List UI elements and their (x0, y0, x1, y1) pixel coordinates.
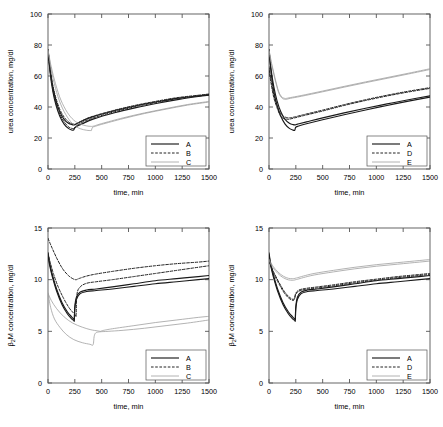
y-tick-label: 10 (34, 275, 42, 284)
x-tick-label: 1250 (395, 387, 411, 396)
x-tick-label: 750 (344, 387, 356, 396)
legend-label-B: B (186, 363, 191, 372)
y-tick-label: 0 (259, 379, 263, 388)
x-tick-label: 1500 (422, 173, 438, 182)
chart-bottom-left: 0250500750100012501500051015time, minβ2M… (0, 214, 221, 427)
x-tick-label: 250 (69, 173, 81, 182)
x-tick-label: 1500 (201, 173, 217, 182)
x-tick-label: 500 (317, 387, 329, 396)
x-tick-label: 1500 (422, 387, 438, 396)
x-tick-label: 0 (267, 387, 271, 396)
y-tick-label: 0 (38, 379, 42, 388)
x-tick-label: 500 (96, 387, 108, 396)
x-tick-label: 500 (96, 173, 108, 182)
y-tick-label: 60 (255, 72, 263, 81)
legend-label-A: A (186, 140, 191, 149)
legend-box (367, 136, 427, 166)
y-axis-label: urea concentration, mg/dl (6, 49, 15, 133)
legend-label-B: B (186, 149, 191, 158)
legend-label-C: C (186, 158, 191, 167)
x-axis-label: time, min (335, 402, 365, 411)
y-tick-label: 20 (255, 134, 263, 143)
series-line-A (269, 253, 430, 320)
legend-label-A: A (186, 354, 191, 363)
x-tick-label: 750 (344, 173, 356, 182)
series-group (269, 50, 430, 131)
series-line-A (48, 50, 209, 125)
legend-label-D: D (407, 149, 412, 158)
legend-label-E: E (407, 158, 412, 167)
y-tick-label: 15 (255, 224, 263, 233)
y-tick-label: 0 (259, 165, 263, 174)
x-axis-label: time, min (114, 188, 144, 197)
legend-box (146, 350, 206, 380)
series-line-B (48, 238, 209, 279)
chart-top-right: 0250500750100012501500020406080100time, … (221, 0, 442, 213)
series-group (269, 253, 430, 322)
y-tick-label: 15 (34, 224, 42, 233)
series-line-C (48, 50, 209, 127)
y-tick-label: 40 (34, 103, 42, 112)
x-tick-label: 250 (290, 387, 302, 396)
y-axis-label: β2M concentration, mg/dl (227, 264, 237, 346)
x-tick-label: 250 (290, 173, 302, 182)
y-tick-label: 10 (255, 275, 263, 284)
x-tick-label: 1000 (147, 387, 163, 396)
figure-container: 0250500750100012501500020406080100time, … (0, 0, 443, 427)
y-axis-label: β2M concentration, mg/dl (6, 264, 16, 346)
y-tick-label: 5 (259, 327, 263, 336)
x-tick-label: 1000 (368, 173, 384, 182)
x-tick-label: 1250 (395, 173, 411, 182)
chart-bottom-right: 0250500750100012501500051015time, minβ2M… (221, 214, 442, 427)
x-tick-label: 1250 (174, 387, 190, 396)
x-axis-label: time, min (335, 188, 365, 197)
series-line-B (48, 50, 209, 125)
y-tick-label: 20 (34, 134, 42, 143)
y-tick-label: 80 (34, 41, 42, 50)
y-tick-label: 0 (38, 165, 42, 174)
chart-top-left: 0250500750100012501500020406080100time, … (0, 0, 221, 213)
y-tick-label: 40 (255, 103, 263, 112)
x-axis-label: time, min (114, 402, 144, 411)
x-tick-label: 1250 (174, 173, 190, 182)
series-line-D (269, 260, 430, 299)
y-tick-label: 60 (34, 72, 42, 81)
y-tick-label: 100 (30, 10, 42, 19)
legend-label-C: C (186, 372, 191, 381)
panel-top-right: 0250500750100012501500020406080100time, … (221, 0, 442, 213)
panel-bottom-right: 0250500750100012501500051015time, minβ2M… (221, 214, 442, 427)
x-tick-label: 0 (267, 173, 271, 182)
x-tick-label: 750 (123, 387, 135, 396)
x-tick-label: 500 (317, 173, 329, 182)
legend-label-E: E (407, 372, 412, 381)
y-tick-label: 5 (38, 327, 42, 336)
series-group (48, 50, 209, 131)
panel-bottom-left: 0250500750100012501500051015time, minβ2M… (0, 214, 221, 427)
series-line-A2 (269, 255, 430, 322)
x-tick-label: 250 (69, 387, 81, 396)
x-tick-label: 1000 (147, 173, 163, 182)
legend-box (367, 350, 427, 380)
y-tick-label: 80 (255, 41, 263, 50)
series-group (48, 238, 209, 345)
x-tick-label: 0 (46, 173, 50, 182)
y-tick-label: 100 (251, 10, 263, 19)
x-tick-label: 1000 (368, 387, 384, 396)
y-axis-label: urea concentration, mg/dl (227, 49, 236, 133)
x-tick-label: 0 (46, 387, 50, 396)
x-tick-label: 1500 (201, 387, 217, 396)
legend-label-A: A (407, 354, 412, 363)
x-tick-label: 750 (123, 173, 135, 182)
panel-top-left: 0250500750100012501500020406080100time, … (0, 0, 221, 213)
legend-label-A: A (407, 140, 412, 149)
legend-box (146, 136, 206, 166)
legend-label-D: D (407, 363, 412, 372)
